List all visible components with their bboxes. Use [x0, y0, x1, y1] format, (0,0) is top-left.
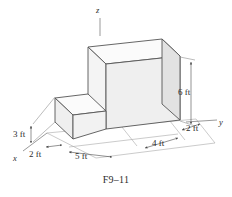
dimension-label-4ft: 4 ft: [152, 139, 164, 148]
ext-line-3ft-top: [33, 97, 55, 124]
axis-label-z: z: [96, 6, 99, 15]
axis-label-x: x: [13, 154, 17, 163]
figure-caption: F9–11: [0, 174, 232, 185]
isometric-solid-drawing: [0, 0, 232, 197]
dim-line-2ft-a: [46, 145, 62, 147]
ground-line-right: [196, 119, 215, 143]
dimension-label-2ft-depth-small: 2 ft: [29, 150, 41, 159]
dimension-label-5ft: 5 ft: [75, 152, 87, 161]
ext-line-3ft-bottom: [33, 122, 55, 142]
low-block-front-face: [73, 111, 106, 139]
axis-label-y: y: [219, 118, 223, 127]
dimension-label-6ft: 6 ft: [178, 88, 190, 97]
ext-line-6ft-top: [180, 57, 195, 60]
dimension-label-3ft: 3 ft: [13, 130, 25, 139]
figure-container: 3 ft 2 ft 5 ft 4 ft 2 ft 6 ft x y z F9–1…: [0, 0, 232, 197]
dimension-label-2ft-depth-large: 2 ft: [186, 124, 198, 133]
y-axis-line: [186, 120, 217, 122]
